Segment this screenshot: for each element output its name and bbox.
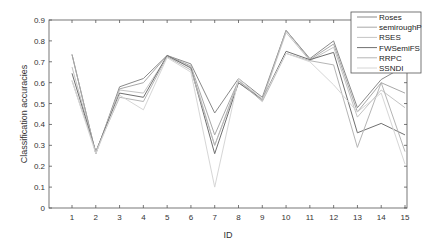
y-tick-label: 0: [41, 204, 46, 213]
x-tick-label: 13: [353, 213, 362, 222]
legend-label: Roses: [379, 13, 402, 22]
x-tick-label: 15: [401, 213, 410, 222]
x-tick-label: 10: [282, 213, 291, 222]
x-tick-label: 14: [377, 213, 386, 222]
x-axis-label: ID: [224, 230, 234, 240]
x-tick-label: 4: [141, 213, 146, 222]
y-tick-label: 0.9: [34, 16, 46, 25]
x-tick-label: 9: [260, 213, 265, 222]
y-tick-label: 0.6: [34, 79, 46, 88]
x-tick-label: 2: [94, 213, 99, 222]
legend-label: RSES: [379, 33, 401, 42]
y-axis-label: Classification accuracies: [19, 64, 29, 163]
x-tick-label: 12: [329, 213, 338, 222]
legend-label: semiroughP: [379, 23, 422, 32]
y-tick-label: 0.7: [34, 58, 46, 67]
x-tick-label: 8: [236, 213, 241, 222]
x-tick-label: 1: [70, 213, 75, 222]
legend-label: RRPC: [379, 54, 402, 63]
x-tick-label: 7: [212, 213, 217, 222]
y-tick-label: 0.5: [34, 100, 46, 109]
line-chart: 00.10.20.30.40.50.60.70.80.9 12345678910…: [0, 0, 442, 245]
y-tick-label: 0.4: [34, 120, 46, 129]
x-tick-label: 3: [117, 213, 122, 222]
y-tick-label: 0.2: [34, 162, 46, 171]
legend-label: FWSemiFS: [379, 44, 420, 53]
legend: RosessemiroughPRSESFWSemiFSRRPCSSNDI: [351, 12, 422, 73]
y-tick-label: 0.3: [34, 141, 46, 150]
x-tick-label: 11: [306, 213, 315, 222]
y-tick-label: 0.8: [34, 37, 46, 46]
x-tick-label: 6: [189, 213, 194, 222]
x-tick-label: 5: [165, 213, 170, 222]
y-tick-label: 0.1: [34, 183, 46, 192]
legend-label: SSNDI: [379, 64, 403, 73]
